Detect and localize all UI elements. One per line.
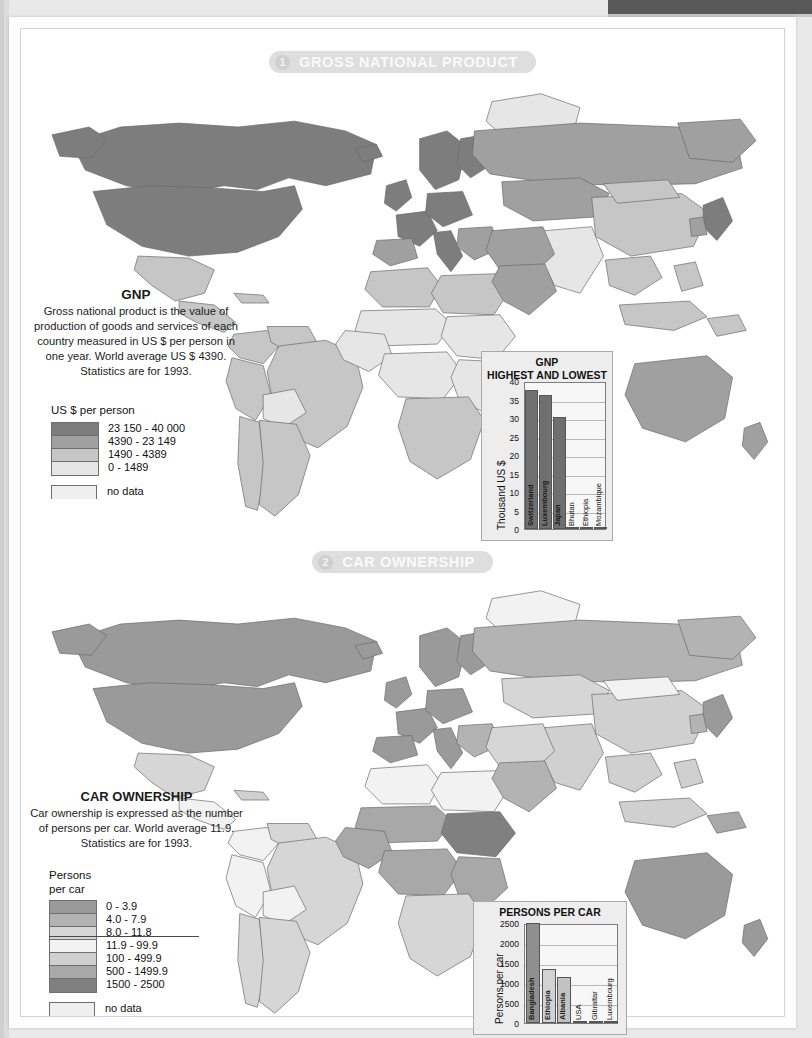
gnp-bar-chart: GNPHIGHEST AND LOWESTSwitzerlandLuxembou… <box>481 351 613 541</box>
legend-label: 0 - 1489 <box>108 461 148 473</box>
map-country-uk[interactable] <box>384 677 411 708</box>
chart-bar <box>580 527 593 529</box>
legend-label: 4.0 - 7.9 <box>106 913 146 925</box>
persons-per-car-bar-chart: PERSONS PER CARBangladeshEthiopiaAlbania… <box>473 901 627 1035</box>
map-country-centralafrica[interactable] <box>379 849 463 896</box>
map-country-southernafrica[interactable] <box>398 894 484 976</box>
chart-y-tick: 20 <box>510 451 519 461</box>
map-country-arabia[interactable] <box>492 761 557 812</box>
legend-swatch <box>50 966 96 979</box>
chart-y-tick: 40 <box>510 377 519 387</box>
map-country-seasia[interactable] <box>605 256 662 295</box>
legend-divider <box>49 936 199 937</box>
legend-label: 1490 - 4389 <box>108 448 167 460</box>
map-country-southernafrica[interactable] <box>398 397 484 479</box>
chart-bar <box>573 1021 587 1023</box>
chart-y-tick: 500 <box>505 999 519 1009</box>
chart-y-tick: 5 <box>514 507 519 517</box>
atlas-page: 1 GROSS NATIONAL PRODUCT GNP Gross natio… <box>9 17 796 1028</box>
legend-row: 1500 - 2500 <box>50 979 96 992</box>
map-country-indonesia[interactable] <box>619 301 707 330</box>
legend-row: 100 - 499.9 <box>50 953 96 966</box>
map-country-png[interactable] <box>707 315 746 337</box>
left-page-edge <box>0 0 4 1038</box>
section-title-2: CAR OWNERSHIP <box>342 554 475 570</box>
map-country-newzealand[interactable] <box>742 422 767 459</box>
map-country-sudan_ethiopia[interactable] <box>441 812 515 857</box>
legend-label-no-data: no data <box>107 485 144 497</box>
map-country-siberia_east[interactable] <box>678 616 756 659</box>
legend-swatch-stack: 0 - 3.94.0 - 7.98.0 - 11.811.9 - 99.9100… <box>49 900 97 993</box>
legend-row: 1490 - 4389 <box>52 449 98 462</box>
chart-y-tick: 0 <box>514 1019 519 1029</box>
legend-title: US $ per person <box>51 404 135 418</box>
legend-swatch <box>50 901 96 914</box>
legend-row: 0 - 1489 <box>52 462 98 475</box>
map-country-newzealand[interactable] <box>742 919 767 956</box>
chart-bar <box>604 1021 618 1023</box>
chart-bar-label: Luxembourg <box>605 978 614 1020</box>
chart-plot-area: SwitzerlandLuxembourgJapanBhutanEthiopia… <box>524 382 606 530</box>
legend-title: Personsper car <box>49 869 97 896</box>
map-country-japan[interactable] <box>703 694 732 737</box>
chart-bar-label: Ethiopia <box>543 990 552 1020</box>
map-country-usa[interactable] <box>93 683 302 753</box>
chart-y-tick: 2000 <box>500 939 519 949</box>
map-country-morocco_algeria[interactable] <box>365 765 441 804</box>
gnp-text-block: GNP Gross national product is the value … <box>31 287 241 378</box>
legend-row: 23 150 - 40 000 <box>52 423 98 436</box>
legend-row: 500 - 1499.9 <box>50 966 96 979</box>
map-country-seasia[interactable] <box>605 753 662 792</box>
map-country-centralafrica[interactable] <box>379 352 463 399</box>
gnp-text-title: GNP <box>31 287 241 302</box>
legend-swatch <box>50 914 96 927</box>
legend-swatch <box>50 979 96 992</box>
map-country-uk[interactable] <box>384 180 411 211</box>
chart-y-axis-label: Persons per car <box>494 953 505 1024</box>
legend-swatch <box>50 927 96 940</box>
legend-swatch <box>52 462 98 475</box>
map-country-spain[interactable] <box>373 735 418 762</box>
gnp-text-body: Gross national product is the value of p… <box>31 304 241 378</box>
map-country-canada[interactable] <box>72 121 377 193</box>
legend-swatch-no-data <box>51 485 97 499</box>
section-title: GROSS NATIONAL PRODUCT <box>299 54 518 70</box>
legend-label: 11.9 - 99.9 <box>106 939 158 951</box>
map-country-png[interactable] <box>707 812 746 834</box>
map-country-usa[interactable] <box>93 186 302 256</box>
map-country-australia[interactable] <box>625 853 733 939</box>
chart-title: PERSONS PER CAR <box>474 906 626 919</box>
map-country-japan[interactable] <box>703 197 732 240</box>
map-country-spain[interactable] <box>373 238 418 265</box>
chart-bar-label: Luxembourg <box>540 481 549 526</box>
legend-swatch <box>50 953 96 966</box>
map-country-morocco_algeria[interactable] <box>365 268 441 307</box>
map-country-indonesia[interactable] <box>619 798 707 827</box>
legend-swatch-no-data <box>49 1002 95 1016</box>
map-country-australia[interactable] <box>625 356 733 442</box>
section-number: 1 <box>275 55 290 70</box>
chart-y-tick: 25 <box>510 433 519 443</box>
chart-bar <box>589 1021 603 1023</box>
section-banner-car: 2 CAR OWNERSHIP <box>21 551 784 573</box>
legend-label: 4390 - 23 149 <box>108 435 176 447</box>
legend-label: 100 - 499.9 <box>106 952 162 964</box>
section-number-2: 2 <box>318 555 333 570</box>
chart-bar-label: Bangladesh <box>527 977 536 1020</box>
legend-label-no-data: no data <box>105 1002 142 1014</box>
legend-row-no-data: no data <box>49 1002 97 1016</box>
car-text-title: CAR OWNERSHIP <box>29 789 244 804</box>
chart-bar <box>566 527 579 529</box>
map-country-canada[interactable] <box>72 618 377 690</box>
legend-label: 1500 - 2500 <box>106 978 165 990</box>
map-country-siberia_east[interactable] <box>678 119 756 162</box>
car-text-block: CAR OWNERSHIP Car ownership is expressed… <box>29 789 244 851</box>
map-country-arabia[interactable] <box>492 264 557 315</box>
map-country-philippines[interactable] <box>674 262 703 291</box>
legend-swatch <box>50 940 96 953</box>
legend-row: 8.0 - 11.8 <box>50 927 96 940</box>
map-country-philippines[interactable] <box>674 759 703 788</box>
chart-bar-label: Albania <box>558 993 567 1020</box>
chart-bar <box>594 527 607 529</box>
banner-pill-2: 2 CAR OWNERSHIP <box>312 551 493 573</box>
